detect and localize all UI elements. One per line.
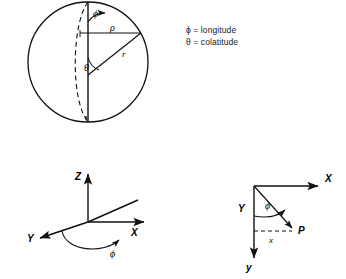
r-label-sphere: r xyxy=(122,49,126,59)
sphere-group: ϕ ρ θ r xyxy=(28,2,148,122)
point-p-label: P xyxy=(298,225,305,236)
theta-label-sphere: θ xyxy=(84,62,89,73)
y-axis-label-right: y xyxy=(245,262,252,273)
phi-arc-left-axes xyxy=(62,231,119,249)
x-component-label: x xyxy=(268,235,273,245)
rho-label-sphere: ρ xyxy=(109,22,115,33)
radial-vector-line xyxy=(254,186,292,228)
right-axes-group: X y Y ϕ x P xyxy=(238,173,333,273)
radial-label-right: Y xyxy=(238,203,246,214)
x-axis-label: X xyxy=(130,227,139,238)
phi-label-sphere: ϕ xyxy=(93,8,98,19)
left-axes-group: Z X Y ϕ xyxy=(27,171,144,259)
figure-canvas: ϕ ρ θ r Z X Y ϕ xyxy=(0,0,346,279)
figure-root: ϕ ρ θ r Z X Y ϕ xyxy=(0,0,346,279)
legend-line-colatitude: θ = colatitude xyxy=(186,36,238,48)
phi-label-left-axes: ϕ xyxy=(110,248,115,259)
legend-line-longitude: ϕ = longitude xyxy=(186,24,238,36)
bottom-caption-fragment xyxy=(4,268,174,277)
legend-block: ϕ = longitude θ = colatitude xyxy=(186,24,238,48)
phi-label-right-axes: ϕ xyxy=(265,200,270,211)
depth-axis-line xyxy=(88,200,138,222)
y-axis-label: Y xyxy=(27,233,35,244)
x-axis-label-right: X xyxy=(324,173,333,184)
z-axis-label: Z xyxy=(74,171,82,182)
